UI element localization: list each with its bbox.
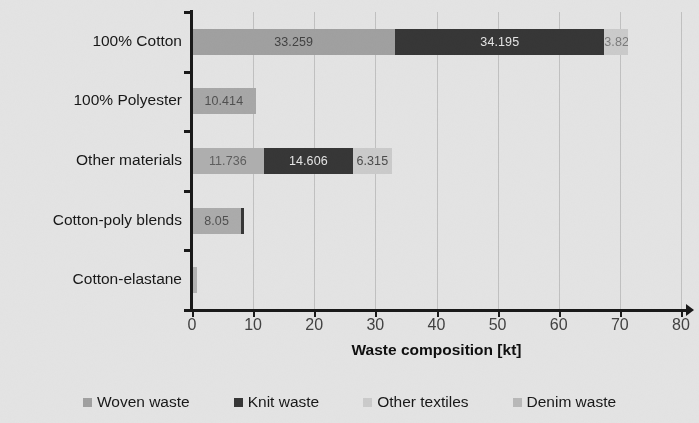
x-axis-arrow xyxy=(686,304,694,316)
x-axis-tick-label: 40 xyxy=(417,316,457,334)
y-axis-tick xyxy=(184,130,193,133)
bar-row: 11.73614.6066.315 xyxy=(192,148,681,174)
chart-legend: Woven wasteKnit wasteOther textilesDenim… xyxy=(0,389,699,415)
bar-segment[interactable]: 3.824 xyxy=(604,29,627,55)
y-axis-tick xyxy=(184,71,193,74)
x-axis-tick-label: 20 xyxy=(294,316,334,334)
plot-area: 33.25934.1953.82410.41411.73614.6066.315… xyxy=(192,12,681,310)
bar-value-label: 3.824 xyxy=(604,35,627,49)
y-axis-line xyxy=(190,10,193,312)
bar-value-label: 14.606 xyxy=(264,154,353,168)
category-label: 100% Cotton xyxy=(0,32,182,50)
x-axis-tick-label: 30 xyxy=(355,316,395,334)
legend-item[interactable]: Woven waste xyxy=(83,393,190,411)
category-label: Cotton-poly blends xyxy=(0,211,182,229)
bar-stack[interactable]: 10.414 xyxy=(192,88,256,114)
bar-value-label: 33.259 xyxy=(192,35,395,49)
x-axis-tick-label: 70 xyxy=(600,316,640,334)
bar-row: 10.414 xyxy=(192,88,681,114)
x-axis-title: Waste composition [kt] xyxy=(192,341,681,359)
bar-value-label: 8.05 xyxy=(192,214,241,228)
x-axis-tick-label: 10 xyxy=(233,316,273,334)
bar-stack[interactable]: 11.73614.6066.315 xyxy=(192,148,392,174)
legend-swatch-icon xyxy=(513,398,522,407)
bar-value-label: 6.315 xyxy=(353,154,392,168)
category-label: Other materials xyxy=(0,151,182,169)
legend-swatch-icon xyxy=(83,398,92,407)
x-axis-tick-label: 60 xyxy=(539,316,579,334)
bar-segment[interactable]: 34.195 xyxy=(395,29,604,55)
bar-segment[interactable]: 33.259 xyxy=(192,29,395,55)
bar-value-label: 34.195 xyxy=(395,35,604,49)
gridline xyxy=(681,12,682,310)
bar-segment[interactable]: 11.736 xyxy=(192,148,264,174)
x-axis-line xyxy=(190,309,689,312)
legend-swatch-icon xyxy=(363,398,372,407)
bar-row xyxy=(192,267,681,293)
category-label: 100% Polyester xyxy=(0,91,182,109)
bar-segment[interactable]: 6.315 xyxy=(353,148,392,174)
bar-row: 33.25934.1953.824 xyxy=(192,29,681,55)
y-axis-tick xyxy=(184,11,193,14)
x-axis-tick-label: 80 xyxy=(661,316,699,334)
y-axis-tick xyxy=(184,249,193,252)
legend-item[interactable]: Denim waste xyxy=(513,393,617,411)
stacked-bar-chart: 33.25934.1953.82410.41411.73614.6066.315… xyxy=(0,0,699,423)
bar-value-label: 10.414 xyxy=(192,94,256,108)
x-axis-tick-label: 0 xyxy=(172,316,212,334)
bar-stack[interactable]: 8.05 xyxy=(192,208,244,234)
bar-row: 8.05 xyxy=(192,208,681,234)
y-axis-tick xyxy=(184,190,193,193)
legend-label: Other textiles xyxy=(377,393,468,411)
bar-stack[interactable]: 33.25934.1953.824 xyxy=(192,29,628,55)
legend-label: Knit waste xyxy=(248,393,320,411)
bar-value-label: 11.736 xyxy=(192,154,264,168)
legend-swatch-icon xyxy=(234,398,243,407)
legend-item[interactable]: Other textiles xyxy=(363,393,468,411)
category-label: Cotton-elastane xyxy=(0,270,182,288)
bar-segment[interactable] xyxy=(241,208,244,234)
legend-label: Denim waste xyxy=(527,393,617,411)
legend-item[interactable]: Knit waste xyxy=(234,393,320,411)
x-axis-tick-label: 50 xyxy=(478,316,518,334)
bar-segment[interactable]: 10.414 xyxy=(192,88,256,114)
legend-label: Woven waste xyxy=(97,393,190,411)
bar-segment[interactable]: 8.05 xyxy=(192,208,241,234)
bar-segment[interactable]: 14.606 xyxy=(264,148,353,174)
